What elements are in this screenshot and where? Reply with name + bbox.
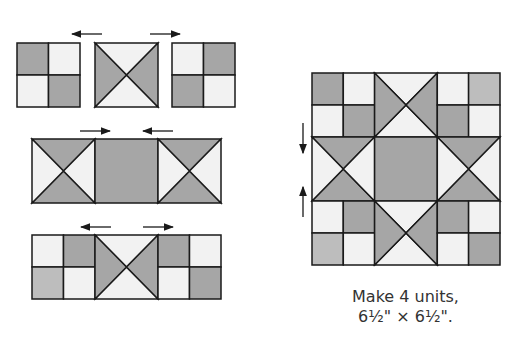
caption: Make 4 units, 6½" × 6½".: [300, 287, 511, 327]
row-1-hourglass: [95, 43, 158, 107]
row-2-hourglass-left: [32, 139, 95, 203]
row-1-four-patch-right: [172, 43, 235, 107]
row-2-hourglass-right: [158, 139, 221, 203]
row-3-hourglass: [95, 235, 158, 299]
row-3-four-patch-right: [158, 235, 221, 299]
caption-line-2: 6½" × 6½".: [300, 307, 511, 327]
row-2-center-square: [95, 139, 158, 203]
row-1-four-patch-left: [17, 43, 80, 107]
row-3-four-patch-left: [32, 235, 95, 299]
caption-line-1: Make 4 units,: [300, 287, 511, 307]
assembled-block: [312, 73, 500, 265]
